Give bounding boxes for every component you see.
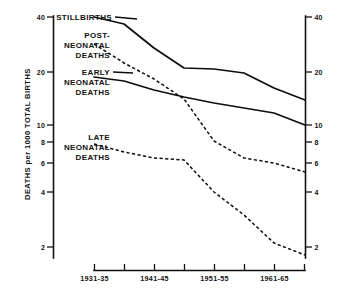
series-group — [94, 17, 305, 255]
x-axis-tick-labels: 1931-35 1941-45 1951-55 1961-65 — [80, 274, 288, 283]
x-tick-label-1951-55: 1951-55 — [200, 274, 228, 283]
left-tick-label-8: 8 — [41, 139, 45, 146]
annotation-post-neonatal: POST- NEONATAL DEATHS — [64, 31, 110, 60]
annotation-early-neonatal-line-2: NEONATAL — [64, 78, 110, 87]
x-tick-label-1931-35: 1931-35 — [80, 274, 108, 283]
left-axis: 40 20 10 8 6 4 2 DEATHS per 1000 TOTAL B… — [23, 14, 54, 258]
x-axis-ticks — [95, 264, 305, 271]
left-tick-label-6: 6 — [41, 160, 45, 167]
right-tick-label-8: 8 — [315, 139, 319, 146]
annotation-post-neonatal-line-2: NEONATAL — [64, 41, 110, 50]
chart-figure: 40 20 10 8 6 4 2 DEATHS per 1000 TOTAL B… — [0, 0, 337, 299]
series-post-neonatal-deaths — [94, 44, 305, 172]
series-early-neonatal-deaths — [94, 77, 305, 125]
right-tick-label-20: 20 — [315, 69, 323, 76]
left-tick-label-20: 20 — [37, 69, 45, 76]
right-axis-ticks — [306, 17, 313, 247]
x-tick-label-1941-45: 1941-45 — [140, 274, 168, 283]
annotation-late-neonatal: LATE NEONATAL DEATHS — [64, 133, 110, 162]
right-tick-label-2: 2 — [315, 244, 319, 251]
annotation-early-neonatal: EARLY NEONATAL DEATHS — [64, 68, 133, 97]
leader-stillbirths — [115, 17, 137, 19]
annotation-late-neonatal-line-2: NEONATAL — [64, 143, 110, 152]
annotation-stillbirths-line-1: STILLBIRTHS — [56, 13, 112, 22]
right-axis: 40 20 10 8 6 4 2 — [306, 14, 323, 258]
right-tick-label-4: 4 — [315, 189, 319, 196]
y-axis-title: DEATHS per 1000 TOTAL BIRTHS — [23, 68, 32, 200]
annotations-group: STILLBIRTHS POST- NEONATAL DEATHS EARLY … — [56, 13, 137, 162]
right-axis-tick-labels: 40 20 10 8 6 4 2 — [315, 14, 323, 251]
annotation-late-neonatal-line-3: DEATHS — [76, 153, 111, 162]
annotation-late-neonatal-line-1: LATE — [88, 133, 110, 142]
annotation-post-neonatal-line-1: POST- — [84, 31, 110, 40]
annotation-early-neonatal-line-3: DEATHS — [76, 88, 111, 97]
left-tick-label-10: 10 — [37, 122, 45, 129]
leader-early-neonatal — [113, 72, 133, 73]
left-tick-label-40: 40 — [37, 14, 45, 21]
line-chart-canvas: 40 20 10 8 6 4 2 DEATHS per 1000 TOTAL B… — [0, 0, 337, 299]
series-stillbirths — [94, 17, 305, 100]
left-tick-label-4: 4 — [41, 189, 45, 196]
left-axis-tick-labels: 40 20 10 8 6 4 2 — [37, 14, 45, 251]
right-tick-label-10: 10 — [315, 122, 323, 129]
annotation-post-neonatal-line-3: DEATHS — [76, 51, 111, 60]
x-axis: 1931-35 1941-45 1951-55 1961-65 — [80, 264, 305, 283]
left-tick-label-2: 2 — [41, 244, 45, 251]
annotation-stillbirths: STILLBIRTHS — [56, 13, 137, 22]
right-tick-label-40: 40 — [315, 14, 323, 21]
series-late-neonatal-deaths — [94, 144, 305, 255]
x-tick-label-1961-65: 1961-65 — [260, 274, 288, 283]
left-axis-ticks — [47, 17, 54, 247]
annotation-early-neonatal-line-1: EARLY — [82, 68, 110, 77]
right-tick-label-6: 6 — [315, 160, 319, 167]
